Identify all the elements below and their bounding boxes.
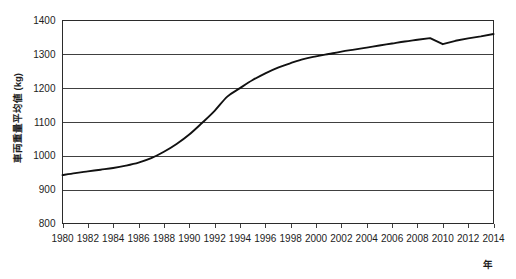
x-tick-label-1990: 1990 <box>178 233 201 244</box>
x-tick-label-2002: 2002 <box>330 233 353 244</box>
x-tick-label-1980: 1980 <box>51 233 74 244</box>
line-chart: 80090010001100120013001400 1980198219841… <box>0 0 516 279</box>
x-tick-label-1992: 1992 <box>203 233 226 244</box>
x-tick-label-2006: 2006 <box>381 233 404 244</box>
y-tick-label-800: 800 <box>39 218 56 229</box>
x-tick-label-1996: 1996 <box>254 233 277 244</box>
y-axis-title: 車両重量平均値 (kg) <box>12 73 23 163</box>
x-tick-label-1988: 1988 <box>153 233 176 244</box>
x-tick-label-2000: 2000 <box>305 233 328 244</box>
x-tick-label-2010: 2010 <box>432 233 455 244</box>
y-tick-label-1200: 1200 <box>33 83 56 94</box>
x-tick-label-2014: 2014 <box>482 233 505 244</box>
y-tick-label-1300: 1300 <box>33 49 56 60</box>
x-tick-label-1998: 1998 <box>280 233 303 244</box>
x-axis-title: 年 <box>483 259 493 270</box>
chart-container: 80090010001100120013001400 1980198219841… <box>0 0 516 279</box>
y-tick-label-900: 900 <box>39 184 56 195</box>
y-tick-label-1400: 1400 <box>33 15 56 26</box>
x-tick-label-2008: 2008 <box>406 233 429 244</box>
x-tick-label-2004: 2004 <box>356 233 379 244</box>
y-tick-label-1100: 1100 <box>34 117 56 128</box>
x-tick-label-1994: 1994 <box>229 233 252 244</box>
y-tick-label-1000: 1000 <box>33 150 56 161</box>
x-tick-label-2012: 2012 <box>457 233 480 244</box>
x-tick-label-1984: 1984 <box>102 233 125 244</box>
x-tick-label-1986: 1986 <box>127 233 150 244</box>
x-tick-label-1982: 1982 <box>77 233 100 244</box>
